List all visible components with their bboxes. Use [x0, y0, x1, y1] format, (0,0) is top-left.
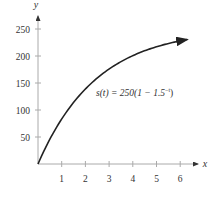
x-tick-label: 5 — [154, 174, 159, 184]
curve-s-of-t — [38, 39, 187, 164]
x-tick-label: 6 — [178, 174, 183, 184]
y-tick-label: 200 — [16, 52, 31, 62]
x-axis: x 123456 — [38, 158, 208, 184]
chart: y 50100150200250 x 123456 s(t) = 250(1 −… — [0, 0, 217, 199]
equation-annotation: s(t) = 250(1 − 1.5−t) — [96, 87, 173, 99]
x-tick-label: 4 — [130, 174, 135, 184]
y-axis: y 50100150200250 — [16, 0, 41, 164]
x-tick-label: 3 — [107, 174, 112, 184]
y-tick-label: 50 — [21, 133, 31, 143]
x-tick-label: 1 — [59, 174, 64, 184]
y-tick-label: 100 — [16, 106, 31, 116]
x-tick-label: 2 — [83, 174, 88, 184]
y-axis-label: y — [33, 0, 39, 10]
y-ticks: 50100150200250 — [16, 25, 41, 143]
y-tick-label: 150 — [16, 79, 31, 89]
x-axis-label: x — [202, 158, 208, 169]
y-tick-label: 250 — [16, 25, 31, 35]
